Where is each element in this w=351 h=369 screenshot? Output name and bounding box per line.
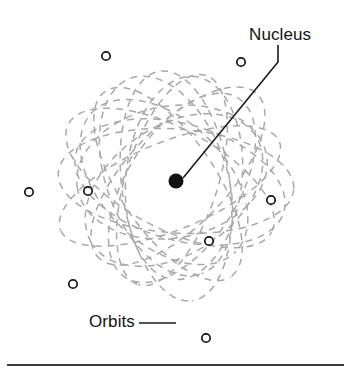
electron-circle <box>69 280 77 288</box>
orbits-label: Orbits <box>89 313 135 330</box>
electron-circle <box>84 187 92 195</box>
electron-circle <box>202 334 210 342</box>
electron-circle <box>205 237 213 245</box>
electron-circle <box>25 188 33 196</box>
nucleus-dot <box>169 174 184 189</box>
electron-circle <box>102 52 110 60</box>
atom-model-illustration <box>0 0 351 369</box>
atom-diagram-figure: Nucleus Orbits <box>0 0 351 369</box>
electron-circle <box>267 196 275 204</box>
electron-circle <box>237 58 245 66</box>
nucleus-label: Nucleus <box>249 26 311 43</box>
